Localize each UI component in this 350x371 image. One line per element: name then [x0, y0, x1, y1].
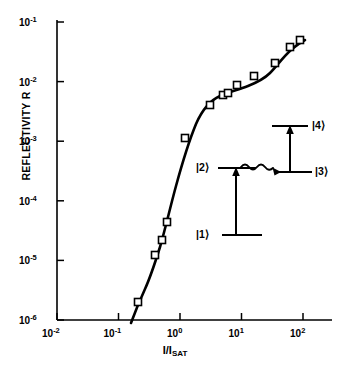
y-axis-ticks: [57, 22, 64, 320]
wavy-relaxation-arrow-2-to-3: [241, 165, 281, 176]
x-tick-label: 102: [290, 326, 305, 339]
data-point: [225, 90, 232, 97]
pump-arrow-3-to-4: [286, 125, 294, 172]
data-point: [152, 252, 159, 259]
x-tick-label: 10-1: [104, 326, 122, 339]
data-point: [251, 73, 258, 80]
inset-state-4-label: |4⟩: [312, 119, 325, 131]
inset-state-2-label: |2⟩: [196, 161, 209, 173]
four-level-energy-diagram: [218, 125, 312, 235]
x-axis-title: I/ISAT: [0, 344, 350, 358]
plot-svg: [0, 0, 350, 371]
pump-arrow-1-to-2: [232, 167, 240, 235]
x-tick-label: 101: [229, 326, 244, 339]
x-tick-label: 100: [167, 326, 182, 339]
figure-container: 10-1 10-2 10-3 10-4 10-5 10-6 10-2 10-1 …: [0, 0, 350, 371]
data-point: [182, 135, 189, 142]
data-point: [272, 60, 279, 67]
y-tick-label: 10-6: [19, 313, 37, 326]
data-point: [287, 44, 294, 51]
x-tick-label: 10-2: [42, 326, 60, 339]
data-point: [135, 299, 142, 306]
y-tick-label: 10-5: [19, 253, 37, 266]
data-point: [159, 237, 166, 244]
data-point: [164, 219, 171, 226]
x-axis-ticks: [57, 313, 303, 320]
inset-state-1-label: |1⟩: [196, 228, 209, 240]
y-axis-title: REFLECTIVITY R: [20, 66, 32, 206]
y-tick-label: 10-1: [19, 15, 37, 28]
data-point: [297, 37, 304, 44]
data-point: [234, 82, 241, 89]
inset-state-3-label: |3⟩: [315, 165, 328, 177]
theoretical-fit-curve: [131, 40, 305, 323]
data-point: [207, 102, 214, 109]
